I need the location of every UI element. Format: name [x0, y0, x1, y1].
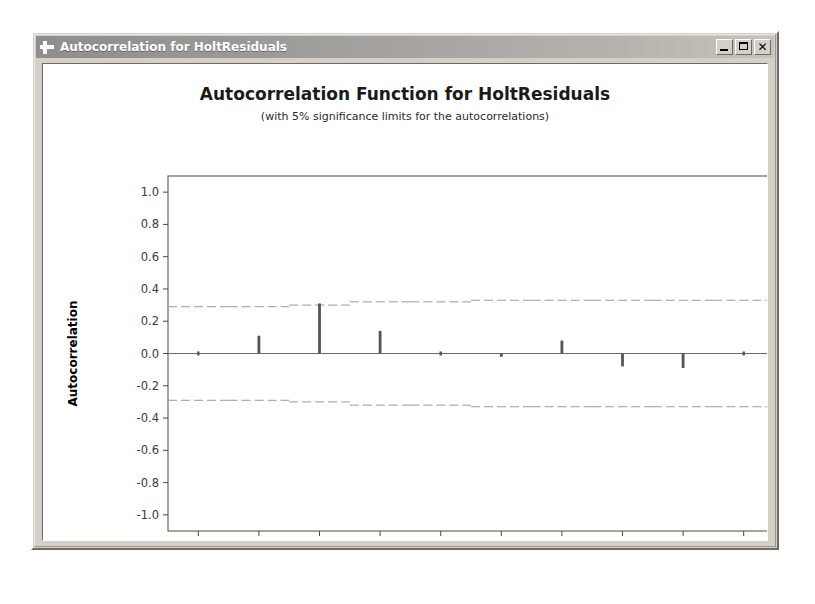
acf-spike: [682, 354, 685, 369]
y-tick-label: -0.8: [137, 476, 159, 490]
window-controls: ✕: [716, 39, 771, 55]
y-tick-label: -0.4: [137, 411, 159, 425]
acf-spike: [318, 303, 321, 353]
plus-cross-icon: [38, 38, 56, 56]
y-axis-label: Autocorrelation: [66, 301, 80, 407]
y-tick-label: -0.2: [137, 379, 159, 393]
graph-client-area: Autocorrelation Function for HoltResidua…: [42, 63, 768, 541]
y-tick-label: 0.2: [141, 314, 159, 328]
maximize-button[interactable]: [735, 39, 752, 55]
close-icon: ✕: [755, 40, 770, 54]
acf-spike: [500, 354, 503, 357]
acf-plot: 1.00.80.60.40.20.0-0.2-0.4-0.6-0.8-1.012…: [43, 64, 768, 541]
y-tick-label: -0.6: [137, 443, 159, 457]
acf-spike: [743, 352, 745, 356]
acf-spike: [561, 341, 564, 354]
y-tick-label: 0.8: [141, 217, 159, 231]
y-tick-label: 1.0: [141, 185, 159, 199]
acf-spike: [258, 336, 261, 354]
acf-spike: [379, 331, 382, 354]
chart-window: Autocorrelation for HoltResiduals ✕ Auto…: [31, 31, 779, 550]
y-tick-label: 0.6: [141, 250, 159, 264]
acf-spike: [621, 354, 624, 367]
y-tick-label: -1.0: [137, 508, 159, 522]
maximize-icon: [739, 42, 748, 50]
close-button[interactable]: ✕: [754, 39, 771, 55]
y-tick-label: 0.4: [141, 282, 159, 296]
y-tick-label: 0.0: [141, 347, 159, 361]
window-title: Autocorrelation for HoltResiduals: [60, 40, 287, 54]
acf-spike: [197, 352, 199, 356]
acf-spike: [440, 352, 442, 356]
window-title-bar[interactable]: Autocorrelation for HoltResiduals ✕: [36, 36, 774, 58]
minimize-button[interactable]: [716, 39, 733, 55]
minimize-icon: [720, 49, 728, 51]
